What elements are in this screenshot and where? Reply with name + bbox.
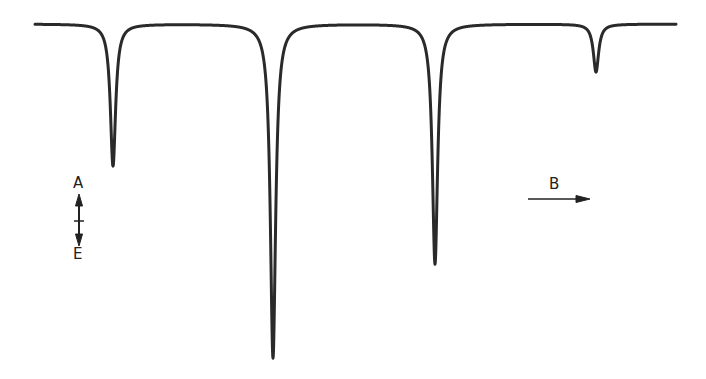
spectrum-line — [35, 24, 676, 358]
absorption-label: A — [73, 176, 83, 191]
emission-label: E — [73, 247, 82, 262]
absorption-emission-arrow-icon — [74, 194, 84, 246]
spectrum-plot — [0, 0, 706, 379]
field-axis-label: B — [549, 177, 559, 192]
field-direction-arrow-icon — [528, 196, 590, 203]
